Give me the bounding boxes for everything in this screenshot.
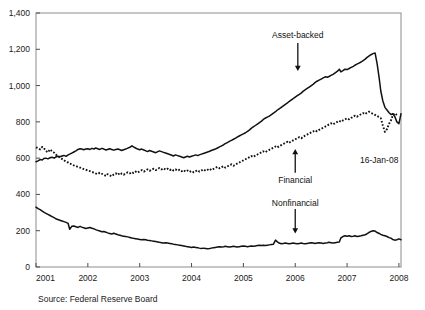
source-note: Source: Federal Reserve Board (38, 294, 158, 304)
plot-frame (36, 13, 401, 267)
y-axis: 02004006008001,0001,2001,400 (9, 8, 40, 272)
x-tick-label: 2007 (338, 273, 357, 283)
annotation-label-asset-backed: Asset-backed (272, 30, 324, 40)
y-tick-label: 1,200 (9, 44, 31, 54)
y-tick-label: 800 (16, 117, 30, 127)
chart-figure: 02004006008001,0001,2001,400200120022003… (0, 0, 425, 310)
y-tick-label: 1,400 (9, 8, 31, 18)
annotation-label-nonfinancial: Nonfinancial (272, 198, 319, 208)
annotation-arrow-head-nonfinancial (292, 228, 298, 233)
x-tick-label: 2001 (36, 273, 55, 283)
commercial-paper-outstanding-chart: 02004006008001,0001,2001,400200120022003… (0, 0, 425, 310)
plot-border (36, 13, 401, 267)
annotation-arrow-head-asset-backed (295, 66, 301, 71)
y-tick-label: 600 (16, 153, 30, 163)
x-tick-label: 2006 (286, 273, 305, 283)
annotation-arrow-head-financial (292, 149, 298, 154)
series-line-nonfinancial (36, 207, 401, 249)
annotation-nonfinancial: Nonfinancial (272, 198, 319, 234)
x-tick-label: 2002 (78, 273, 97, 283)
y-tick-label: 0 (25, 262, 30, 272)
annotation-label-date-stamp: 16-Jan-08 (360, 155, 399, 165)
x-axis: 20012002200320042005200620072008 (36, 263, 409, 283)
x-tick-label: 2008 (389, 273, 408, 283)
y-tick-label: 1,000 (9, 81, 31, 91)
x-tick-label: 2003 (130, 273, 149, 283)
series-line-asset-backed (36, 53, 401, 162)
annotation-label-financial: Financial (278, 175, 312, 185)
annotation-date-stamp: 16-Jan-08 (360, 155, 399, 165)
annotation-financial: Financial (278, 149, 312, 185)
y-tick-label: 400 (16, 189, 30, 199)
x-tick-label: 2005 (234, 273, 253, 283)
x-tick-label: 2004 (182, 273, 201, 283)
series-line-financial (36, 112, 397, 177)
annotation-asset-backed: Asset-backed (272, 30, 324, 71)
y-tick-label: 200 (16, 226, 30, 236)
